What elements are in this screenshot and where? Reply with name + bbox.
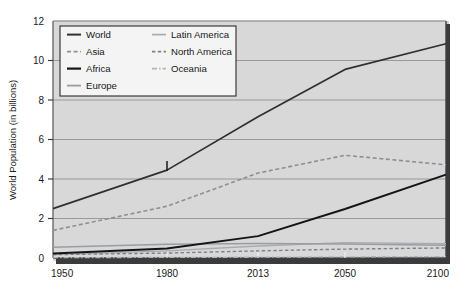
legend-label-world: World <box>86 29 111 40</box>
x-tick-label-1950: 1950 <box>51 268 74 279</box>
legend-label-latin-america: Latin America <box>171 29 230 40</box>
y-tick-label-12: 12 <box>33 16 45 27</box>
x-tick-label-2013: 2013 <box>247 268 270 279</box>
y-axis-title: World Population (in billions) <box>7 80 18 200</box>
legend-label-oceania: Oceania <box>171 63 207 74</box>
y-axis-ticks-group: 024681012 <box>33 16 53 264</box>
x-tick-label-1980: 1980 <box>156 268 179 279</box>
x-tick-label-2050: 2050 <box>334 268 357 279</box>
x-tick-label-2100: 2100 <box>427 268 450 279</box>
y-tick-label-8: 8 <box>38 95 44 106</box>
legend-label-africa: Africa <box>86 63 111 74</box>
legend-label-north-america: North America <box>171 46 232 57</box>
y-tick-label-2: 2 <box>38 213 44 224</box>
y-tick-label-10: 10 <box>33 55 45 66</box>
y-tick-label-4: 4 <box>38 174 44 185</box>
population-line-chart: 024681012 19501980201320502100 World Pop… <box>0 0 472 291</box>
legend-label-asia: Asia <box>86 46 105 57</box>
chart-container: 024681012 19501980201320502100 World Pop… <box>0 0 472 291</box>
legend-label-europe: Europe <box>86 80 117 91</box>
y-tick-label-0: 0 <box>38 253 44 264</box>
y-tick-label-6: 6 <box>38 134 44 145</box>
chart-shadow-bottom <box>56 258 450 264</box>
chart-legend: WorldAsiaAfricaEuropeLatin AmericaNorth … <box>60 26 236 96</box>
